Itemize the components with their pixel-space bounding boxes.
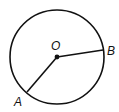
label-A: A	[13, 95, 22, 109]
circle-diagram: O B A	[0, 0, 119, 112]
center-point-O	[55, 55, 60, 60]
label-O: O	[51, 39, 60, 53]
radius-OA	[27, 57, 57, 92]
radius-OB	[57, 50, 103, 57]
label-B: B	[107, 44, 115, 58]
